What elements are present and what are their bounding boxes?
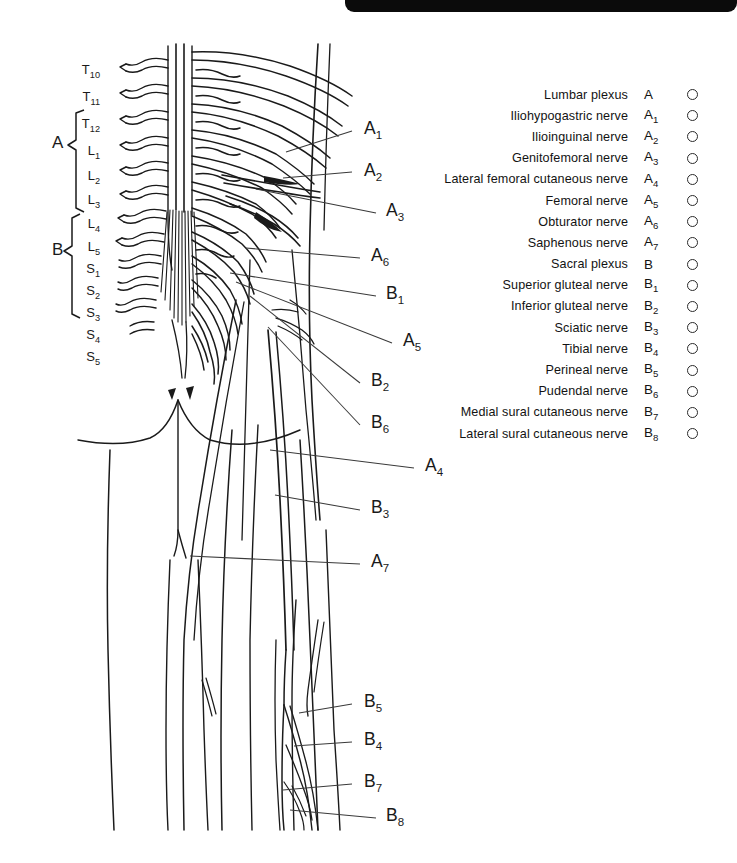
legend-item-label: Iliohypogastric nerve — [430, 109, 644, 123]
nerve-callout-label: B1 — [386, 283, 404, 306]
nerve-callout-label: A6 — [371, 245, 389, 268]
legend-checkbox-circle[interactable] — [687, 386, 698, 397]
legend-row[interactable]: Ilioinguinal nerveA2 — [430, 126, 698, 147]
legend-row[interactable]: Pudendal nerveB6 — [430, 381, 698, 402]
legend-item-label: Perineal nerve — [430, 363, 644, 377]
nerve-callout-label: B7 — [364, 771, 382, 794]
legend-item-code: B — [644, 257, 678, 272]
legend-item-label: Superior gluteal nerve — [430, 278, 644, 292]
legend-item-label: Ilioinguinal nerve — [430, 130, 644, 144]
legend-item-label: Saphenous nerve — [430, 236, 644, 250]
legend-item-label: Lateral sural cutaneous nerve — [430, 427, 644, 441]
legend-checkbox-circle[interactable] — [687, 195, 698, 206]
vertebral-level-label: T12 — [70, 116, 100, 134]
legend-item-code: B4 — [644, 340, 678, 358]
legend-item-code: B3 — [644, 319, 678, 337]
legend-row[interactable]: Femoral nerveA5 — [430, 190, 698, 211]
legend-checkbox-circle[interactable] — [687, 131, 698, 142]
legend-row[interactable]: Inferior gluteal nerveB2 — [430, 296, 698, 317]
legend-row[interactable]: Lumbar plexusA — [430, 84, 698, 105]
vertebral-level-label: L3 — [70, 192, 100, 210]
plexus-group-label: B — [52, 240, 63, 260]
legend-checkbox-circle[interactable] — [687, 110, 698, 121]
legend-item-code: A — [644, 87, 678, 102]
vertebral-level-label: T11 — [70, 89, 100, 107]
legend-item-code: A6 — [644, 213, 678, 231]
legend-item-code: A1 — [644, 107, 678, 125]
vertebral-level-label: L5 — [70, 239, 100, 257]
nerve-callout-label: B8 — [386, 805, 404, 828]
vertebral-level-label: S4 — [70, 327, 100, 345]
plexus-group-label: A — [52, 133, 63, 153]
legend-item-label: Lumbar plexus — [430, 88, 644, 102]
legend-item-code: A3 — [644, 149, 678, 167]
legend-item-label: Sciatic nerve — [430, 321, 644, 335]
legend-item-label: Medial sural cutaneous nerve — [430, 405, 644, 419]
legend-row[interactable]: Sacral plexusB — [430, 254, 698, 275]
legend-checkbox-circle[interactable] — [687, 153, 698, 164]
legend-checkbox-circle[interactable] — [687, 237, 698, 248]
vertebral-level-label: S2 — [70, 283, 100, 301]
legend-item-code: A4 — [644, 171, 678, 189]
legend-item-label: Inferior gluteal nerve — [430, 299, 644, 313]
vertebral-level-label: L4 — [70, 216, 100, 234]
vertebral-level-label: L2 — [70, 168, 100, 186]
legend-row[interactable]: Superior gluteal nerveB1 — [430, 275, 698, 296]
legend-item-label: Femoral nerve — [430, 194, 644, 208]
legend-item-label: Tibial nerve — [430, 342, 644, 356]
nerve-callout-label: B3 — [371, 497, 389, 520]
legend-item-code: B1 — [644, 276, 678, 294]
legend-row[interactable]: Lateral femoral cutaneous nerveA4 — [430, 169, 698, 190]
legend-item-code: A2 — [644, 128, 678, 146]
legend-item-code: A5 — [644, 192, 678, 210]
legend-item-code: A7 — [644, 234, 678, 252]
nerve-callout-label: A5 — [403, 330, 421, 353]
legend-checkbox-circle[interactable] — [687, 174, 698, 185]
legend-checkbox-circle[interactable] — [687, 301, 698, 312]
legend-item-label: Lateral femoral cutaneous nerve — [430, 172, 644, 186]
legend-item-label: Pudendal nerve — [430, 384, 644, 398]
legend-row[interactable]: Medial sural cutaneous nerveB7 — [430, 402, 698, 423]
vertebral-level-label: S1 — [70, 261, 100, 279]
legend-checkbox-circle[interactable] — [687, 89, 698, 100]
legend-checkbox-circle[interactable] — [687, 216, 698, 227]
legend-checkbox-circle[interactable] — [687, 343, 698, 354]
nerve-callout-label: B6 — [371, 412, 389, 435]
legend-checkbox-circle[interactable] — [687, 259, 698, 270]
legend-item-code: B6 — [644, 382, 678, 400]
legend-checkbox-circle[interactable] — [687, 365, 698, 376]
legend-item-label: Genitofemoral nerve — [430, 151, 644, 165]
legend-item-code: B2 — [644, 298, 678, 316]
legend-row[interactable]: Genitofemoral nerveA3 — [430, 148, 698, 169]
nerve-callout-label: A4 — [425, 455, 443, 478]
legend-item-label: Sacral plexus — [430, 257, 644, 271]
legend-row[interactable]: Saphenous nerveA7 — [430, 232, 698, 253]
nerve-callout-label: A1 — [364, 118, 382, 141]
legend-row[interactable]: Obturator nerveA6 — [430, 211, 698, 232]
legend-checkbox-circle[interactable] — [687, 280, 698, 291]
legend-row[interactable]: Lateral sural cutaneous nerveB8 — [430, 423, 698, 444]
legend-checkbox-circle[interactable] — [687, 322, 698, 333]
vertebral-level-label: T10 — [70, 62, 100, 80]
nerve-callout-label: A7 — [371, 551, 389, 574]
legend-checkbox-circle[interactable] — [687, 428, 698, 439]
legend-item-label: Obturator nerve — [430, 215, 644, 229]
legend-item-code: B8 — [644, 425, 678, 443]
legend-row[interactable]: Iliohypogastric nerveA1 — [430, 105, 698, 126]
vertebral-level-label: L1 — [70, 143, 100, 161]
legend-checkbox-circle[interactable] — [687, 407, 698, 418]
nerve-callout-label: B2 — [371, 370, 389, 393]
legend-item-code: B5 — [644, 361, 678, 379]
legend-item-code: B7 — [644, 404, 678, 422]
nerve-callout-label: A3 — [386, 200, 404, 223]
nerve-callout-label: B4 — [364, 729, 382, 752]
vertebral-level-label: S3 — [70, 305, 100, 323]
nerve-callout-label: A2 — [364, 160, 382, 183]
nerve-callout-label: B5 — [364, 691, 382, 714]
legend-row[interactable]: Perineal nerveB5 — [430, 359, 698, 380]
legend-row[interactable]: Sciatic nerveB3 — [430, 317, 698, 338]
nerve-legend: Lumbar plexusAIliohypogastric nerveA1Ili… — [430, 84, 698, 444]
legend-row[interactable]: Tibial nerveB4 — [430, 338, 698, 359]
vertebral-level-label: S5 — [70, 349, 100, 367]
